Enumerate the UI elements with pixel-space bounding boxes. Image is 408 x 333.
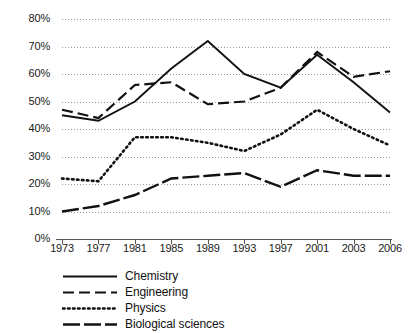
x-tick-label: 1973 bbox=[42, 242, 82, 255]
x-tick-label: 1985 bbox=[151, 242, 191, 255]
y-tick-label: 50% bbox=[4, 96, 50, 107]
legend-swatch-dotted bbox=[62, 301, 118, 315]
x-tick-label: 1997 bbox=[261, 242, 301, 255]
series-line-physics bbox=[62, 110, 390, 182]
y-tick-label: 10% bbox=[4, 206, 50, 217]
x-tick-label: 1993 bbox=[224, 242, 264, 255]
legend-item-chemistry: Chemistry bbox=[62, 268, 362, 284]
series-line-engineering bbox=[62, 52, 390, 118]
legend: ChemistryEngineeringPhysicsBiological sc… bbox=[62, 268, 362, 332]
y-tick-label: 60% bbox=[4, 68, 50, 79]
y-tick-label: 40% bbox=[4, 123, 50, 134]
x-tick-label: 1981 bbox=[115, 242, 155, 255]
legend-label: Engineering bbox=[125, 285, 188, 299]
x-tick-label: 2006 bbox=[370, 242, 408, 255]
legend-swatch-solid bbox=[62, 269, 118, 283]
legend-swatch-dash-dot-long bbox=[62, 317, 118, 331]
series-line-biological-sciences bbox=[62, 170, 390, 211]
series-line-chemistry bbox=[62, 41, 390, 121]
legend-item-biological-sciences: Biological sciences bbox=[62, 316, 362, 332]
legend-item-engineering: Engineering bbox=[62, 284, 362, 300]
x-tick-label: 2001 bbox=[297, 242, 337, 255]
plot-svg bbox=[0, 0, 408, 252]
legend-label: Chemistry bbox=[125, 269, 178, 283]
x-tick-label: 1977 bbox=[78, 242, 118, 255]
y-tick-label: 30% bbox=[4, 151, 50, 162]
line-chart: 0%10%20%30%40%50%60%70%80% 1973197719811… bbox=[0, 0, 408, 333]
y-axis: 0%10%20%30%40%50%60%70%80% bbox=[0, 0, 50, 252]
y-tick-label: 70% bbox=[4, 41, 50, 52]
legend-label: Physics bbox=[125, 301, 166, 315]
x-axis: 1973197719811985198919931997200120032006 bbox=[0, 242, 408, 262]
y-tick-label: 80% bbox=[4, 13, 50, 24]
legend-label: Biological sciences bbox=[125, 317, 225, 331]
y-tick-label: 20% bbox=[4, 178, 50, 189]
x-tick-label: 1989 bbox=[188, 242, 228, 255]
x-tick-label: 2003 bbox=[334, 242, 374, 255]
legend-swatch-long-dash bbox=[62, 285, 118, 299]
legend-item-physics: Physics bbox=[62, 300, 362, 316]
plot-area bbox=[0, 0, 408, 252]
